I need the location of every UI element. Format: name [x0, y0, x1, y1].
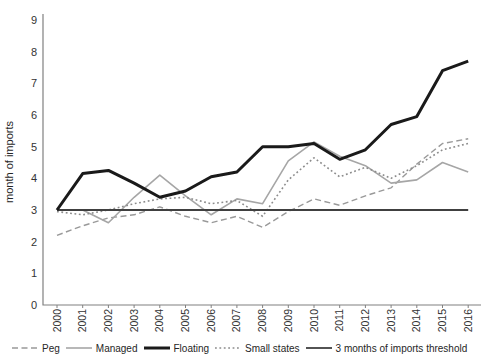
y-tick-label: 3 — [31, 204, 37, 216]
legend-line-sample-peg — [12, 343, 38, 353]
x-tick-label: 2000 — [51, 309, 63, 333]
legend-label-small-states: Small states — [245, 343, 299, 354]
legend-item-small-states: Small states — [215, 343, 299, 354]
legend-label-peg: Peg — [42, 343, 60, 354]
y-tick-label: 6 — [31, 109, 37, 121]
x-tick-label: 2016 — [462, 309, 474, 333]
legend-line-sample-3-months-of-imports-threshold — [306, 343, 332, 353]
series-line-small-states — [57, 144, 468, 217]
chart-legend: PegManagedFloatingSmall states3 months o… — [12, 336, 494, 360]
y-tick-label: 1 — [31, 267, 37, 279]
x-tick-label: 2003 — [128, 309, 140, 333]
legend-line-sample-floating — [144, 343, 170, 353]
x-tick-label: 2010 — [308, 309, 320, 333]
x-tick-label: 2008 — [256, 309, 268, 333]
x-tick-label: 2014 — [410, 309, 422, 333]
y-axis-label: month of imports — [3, 121, 15, 203]
y-tick-label: 9 — [31, 14, 37, 26]
line-chart: 0123456789200020012002200320042005200620… — [0, 0, 496, 336]
legend-line-sample-managed — [66, 343, 92, 353]
series-line-floating — [57, 61, 468, 210]
x-tick-label: 2011 — [333, 309, 345, 332]
y-tick-label: 4 — [31, 172, 37, 184]
legend-label-managed: Managed — [96, 343, 138, 354]
x-tick-label: 2015 — [436, 309, 448, 333]
y-tick-label: 2 — [31, 236, 37, 248]
x-tick-label: 2013 — [385, 309, 397, 333]
legend-label-floating: Floating — [174, 343, 210, 354]
x-tick-label: 2001 — [76, 309, 88, 333]
x-tick-label: 2012 — [359, 309, 371, 333]
axes — [43, 14, 481, 305]
legend-label-3-months-of-imports-threshold: 3 months of imports threshold — [336, 343, 468, 354]
legend-line-sample-small-states — [215, 343, 241, 353]
x-tick-label: 2004 — [153, 309, 165, 333]
y-tick-label: 5 — [31, 141, 37, 153]
legend-item-3-months-of-imports-threshold: 3 months of imports threshold — [306, 343, 468, 354]
y-tick-label: 0 — [31, 299, 37, 311]
y-tick-label: 7 — [31, 77, 37, 89]
line-chart-figure: 0123456789200020012002200320042005200620… — [0, 0, 496, 362]
x-tick-label: 2002 — [102, 309, 114, 333]
x-tick-label: 2009 — [282, 309, 294, 333]
legend-item-floating: Floating — [144, 343, 210, 354]
y-tick-label: 8 — [31, 46, 37, 58]
series-line-peg — [57, 139, 468, 236]
x-tick-label: 2006 — [205, 309, 217, 333]
legend-item-peg: Peg — [12, 343, 60, 354]
legend-item-managed: Managed — [66, 343, 138, 354]
x-tick-label: 2007 — [230, 309, 242, 333]
x-tick-label: 2005 — [179, 309, 191, 333]
